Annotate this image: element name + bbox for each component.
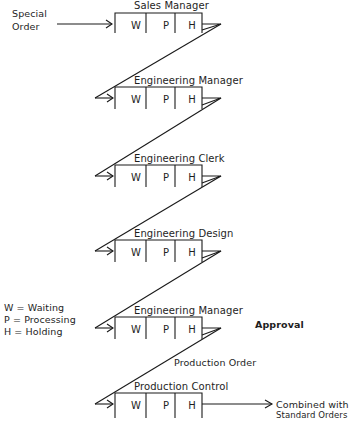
cell-waiting: W xyxy=(129,248,143,258)
cell-processing: P xyxy=(159,95,173,105)
source-label-line2: Order xyxy=(12,21,40,32)
legend-processing: P = Processing xyxy=(4,314,76,325)
cell-waiting: W xyxy=(129,21,143,31)
legend-waiting: W = Waiting xyxy=(4,302,64,313)
cell-waiting: W xyxy=(129,173,143,183)
cell-processing: P xyxy=(159,401,173,411)
output-label-line2: Standard Orders xyxy=(276,410,347,421)
cell-processing: P xyxy=(159,248,173,258)
output-label-line1: Combined with xyxy=(276,399,349,410)
approval-annotation: Approval xyxy=(255,319,304,330)
cell-waiting: W xyxy=(129,95,143,105)
connector-line xyxy=(95,98,221,176)
cell-holding: H xyxy=(185,21,199,31)
legend-holding: H = Holding xyxy=(4,326,63,337)
station-title-engineering-design: Engineering Design xyxy=(134,228,234,239)
cell-waiting: W xyxy=(129,401,143,411)
production-order-annotation: Production Order xyxy=(174,357,256,368)
cell-processing: P xyxy=(159,325,173,335)
station-title-engineering-manager-2: Engineering Manager xyxy=(134,305,243,316)
source-label-line1: Special xyxy=(12,8,47,19)
station-title-engineering-clerk: Engineering Clerk xyxy=(134,153,225,164)
cell-holding: H xyxy=(185,95,199,105)
cell-holding: H xyxy=(185,325,199,335)
cell-holding: H xyxy=(185,248,199,258)
cell-waiting: W xyxy=(129,325,143,335)
cell-holding: H xyxy=(185,401,199,411)
station-title-sales-manager: Sales Manager xyxy=(134,0,209,11)
station-title-production-control: Production Control xyxy=(134,381,228,392)
cell-holding: H xyxy=(185,173,199,183)
cell-processing: P xyxy=(159,173,173,183)
station-title-engineering-manager: Engineering Manager xyxy=(134,75,243,86)
cell-processing: P xyxy=(159,21,173,31)
